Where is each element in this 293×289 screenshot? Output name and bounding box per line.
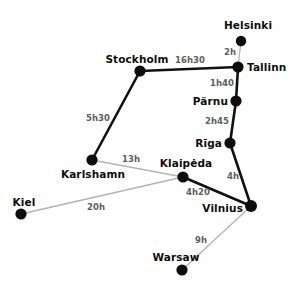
city-label-klaipda: Klaipėda [160, 158, 212, 169]
city-label-prnu: Pärnu [193, 96, 228, 107]
city-label-vilnius: Vilnius [202, 203, 243, 214]
route-duration-pärnu-rīga: 2h45 [205, 117, 229, 126]
route-duration-karlshamn-klaipėda: 13h [122, 155, 140, 164]
route-duration-stockholm-tallinn: 16h30 [175, 56, 205, 65]
city-label-tallinn: Tallinn [247, 62, 286, 73]
city-label-helsinki: Helsinki [224, 20, 272, 31]
route-duration-rīga-vilnius: 4h [227, 172, 239, 181]
route-duration-vilnius-warsaw: 9h [195, 236, 207, 245]
route-duration-kiel-klaipėda: 20h [87, 203, 105, 212]
city-label-stockholm: Stockholm [105, 54, 168, 65]
city-label-kiel: Kiel [13, 197, 36, 208]
route-duration-stockholm-karlshamn: 5h30 [86, 114, 110, 123]
city-label-rga: Rīga [195, 138, 222, 149]
city-label-karlshamn: Karlshamn [61, 169, 125, 180]
route-duration-helsinki-tallinn: 2h [224, 48, 236, 57]
labels-layer: 2h16h301h402h454h4h205h3013h20h9hHelsink… [0, 0, 293, 289]
route-duration-tallinn-pärnu: 1h40 [210, 79, 234, 88]
route-duration-vilnius-klaipėda: 4h20 [186, 188, 210, 197]
city-label-warsaw: Warsaw [152, 252, 199, 263]
travel-time-map: 2h16h301h402h454h4h205h3013h20h9hHelsink… [0, 0, 293, 289]
